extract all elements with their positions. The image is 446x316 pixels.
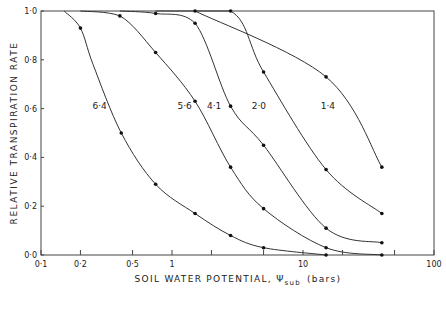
data-point	[262, 143, 266, 147]
data-point	[229, 165, 233, 169]
x-axis-label-main: SOIL WATER POTENTIAL, Ψ	[135, 274, 285, 284]
curve-6-4: 6·4	[64, 11, 328, 257]
data-point	[380, 241, 384, 245]
y-tick-label: 0·2	[24, 202, 37, 211]
y-tick-label: 0·0	[24, 251, 37, 260]
chart-container: 0·00·20·40·60·81·0 0·10·20·5110100 6·45·…	[0, 0, 446, 316]
plot-border	[41, 11, 434, 255]
data-point	[118, 14, 122, 18]
curve-label: 1·4	[321, 101, 336, 111]
data-point	[229, 9, 233, 13]
curve-5-6: 5·6	[80, 11, 383, 257]
y-tick-label: 0·4	[24, 153, 37, 162]
data-point	[380, 212, 384, 216]
data-point	[324, 253, 328, 257]
y-tick-label: 1·0	[24, 7, 37, 16]
x-axis: 0·10·20·5110100	[35, 250, 442, 269]
data-point	[154, 51, 158, 55]
x-axis-label: SOIL WATER POTENTIAL, Ψsub(bars)	[135, 274, 342, 287]
y-tick-label: 0·6	[24, 105, 37, 114]
curve-line	[64, 11, 326, 255]
x-tick-label: 0·2	[74, 260, 87, 269]
curve-label: 6·4	[92, 101, 107, 111]
data-point	[262, 207, 266, 211]
data-point	[193, 21, 197, 25]
data-point	[262, 70, 266, 74]
x-tick-label: 100	[426, 260, 441, 269]
data-point	[324, 246, 328, 250]
data-point	[229, 234, 233, 238]
curve-line	[156, 11, 382, 214]
curve-label: 5·6	[178, 101, 193, 111]
plot-frame	[41, 11, 434, 255]
y-tick-label: 0·8	[24, 56, 37, 65]
x-tick-label: 1	[169, 260, 174, 269]
data-point	[324, 75, 328, 79]
curve-line	[80, 11, 381, 255]
data-point	[380, 165, 384, 169]
data-point	[324, 226, 328, 230]
curve-label: 4·1	[207, 101, 221, 111]
data-point	[193, 212, 197, 216]
x-tick-label: 0·1	[35, 260, 48, 269]
data-point	[229, 104, 233, 108]
curve-line	[120, 11, 382, 243]
data-point	[193, 99, 197, 103]
x-tick-label: 0·5	[126, 260, 139, 269]
x-tick-label: 10	[298, 260, 308, 269]
curve-2-0: 2·0	[156, 9, 384, 215]
transpiration-chart: 0·00·20·40·60·81·0 0·10·20·5110100 6·45·…	[0, 0, 446, 316]
y-axis-label: RELATIVE TRANSPIRATION RATE	[9, 42, 19, 225]
curve-label: 2·0	[252, 101, 267, 111]
x-axis-label-sub: sub	[285, 279, 301, 287]
data-point	[324, 168, 328, 172]
data-point	[380, 253, 384, 257]
data-point	[154, 12, 158, 16]
data-point	[79, 26, 83, 30]
curve-1-4: 1·4	[193, 9, 383, 169]
data-point	[193, 9, 197, 13]
data-point	[262, 246, 266, 250]
data-point	[119, 131, 123, 135]
data-point	[154, 182, 158, 186]
curves: 6·45·64·12·01·4	[64, 9, 384, 257]
x-axis-label-units: (bars)	[307, 274, 341, 284]
